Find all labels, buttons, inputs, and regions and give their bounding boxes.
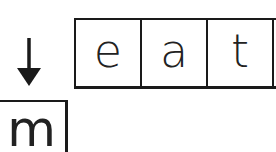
letter-box-3: t — [208, 20, 274, 86]
word-letter-boxes: e a t — [74, 18, 276, 89]
letter-box-1: e — [76, 20, 142, 86]
letter-box-2: a — [142, 20, 208, 86]
down-arrow-icon — [16, 38, 42, 88]
replacement-letter-box: m — [0, 100, 68, 152]
